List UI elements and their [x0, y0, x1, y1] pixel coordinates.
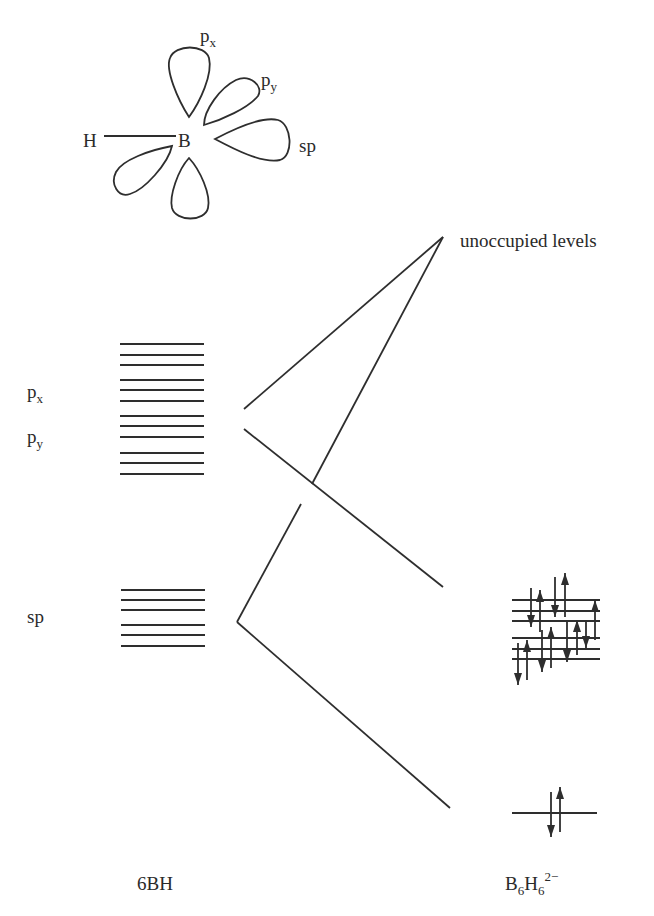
px-lobe-icon [169, 48, 210, 118]
sp-to-lowest-line [237, 622, 450, 808]
sp-to-unoccupied-line-lower [237, 504, 301, 622]
arrowhead-icon [563, 650, 571, 662]
atom-h-label: H [83, 130, 97, 151]
lower-lobe-icon [171, 158, 208, 219]
b6h6-label: B6H62− [505, 869, 558, 898]
sp-energy-levels [121, 590, 205, 646]
sketch-px-label: px [200, 25, 217, 50]
py-lobe-icon [204, 78, 259, 125]
unoccupied-levels-label: unoccupied levels [460, 230, 597, 251]
electron-arrows [514, 573, 599, 837]
arrowhead-icon [556, 787, 564, 799]
p-energy-levels [120, 344, 204, 474]
arrowhead-icon [538, 660, 546, 672]
sketch-py-label: py [261, 69, 278, 94]
arrowhead-icon [582, 636, 590, 648]
arrowhead-icon [536, 590, 544, 602]
left-py-label: py [27, 426, 44, 451]
sp-to-unoccupied-line-upper [312, 237, 443, 484]
mo-diagram: H B px py sp px py sp unoccupied levels [0, 0, 654, 916]
correlation-lines [237, 237, 450, 808]
p-to-unoccupied-line [244, 237, 443, 409]
left-sp-label: sp [27, 606, 44, 627]
sp-lobe-icon [215, 119, 290, 160]
p-to-bonding-line [244, 429, 443, 587]
arrowhead-icon [561, 573, 569, 585]
arrowhead-icon [547, 825, 555, 837]
lower-left-lobe-icon [114, 146, 172, 195]
arrowhead-icon [514, 673, 522, 685]
6bh-label: 6BH [137, 873, 173, 894]
orbital-sketch: H B px py sp [83, 25, 316, 219]
arrowhead-icon [523, 640, 531, 652]
left-px-label: px [27, 381, 44, 406]
sketch-sp-label: sp [299, 135, 316, 156]
atom-b-label: B [178, 130, 191, 151]
arrowhead-icon [547, 627, 555, 639]
arrowhead-icon [591, 600, 599, 612]
